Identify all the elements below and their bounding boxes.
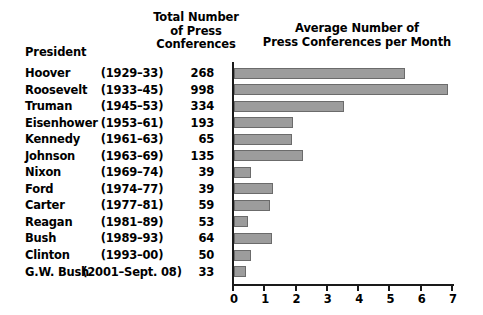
total-header-line-3: Conferences xyxy=(140,38,252,52)
table-row: Ford(1974–77)39 xyxy=(0,182,232,199)
bar-row xyxy=(234,182,483,199)
president-name: Kennedy xyxy=(25,132,80,146)
bar xyxy=(234,183,273,194)
term-years: (1945–53) xyxy=(78,99,186,113)
x-axis-tick-label: 3 xyxy=(318,292,338,306)
x-axis-tick-label: 4 xyxy=(349,292,369,306)
bar xyxy=(234,101,344,112)
term-years: (1953–61) xyxy=(78,116,186,130)
total-conferences-value: 268 xyxy=(178,66,214,80)
president-name: Truman xyxy=(25,99,72,113)
table-row: Kennedy(1961–63)65 xyxy=(0,132,232,149)
total-header-line-1: Total Number xyxy=(140,11,252,25)
x-axis-tick xyxy=(357,284,359,291)
president-column-header: President xyxy=(25,45,87,59)
x-axis-tick xyxy=(263,284,265,291)
president-name: Bush xyxy=(25,231,56,245)
term-years: (1993–00) xyxy=(78,248,186,262)
term-years: (1981–89) xyxy=(78,215,186,229)
x-axis-tick-label: 7 xyxy=(443,292,463,306)
total-conferences-value: 39 xyxy=(178,182,214,196)
bar-row xyxy=(234,198,483,215)
x-axis-tick xyxy=(420,284,422,291)
term-years: (1977–81) xyxy=(78,198,186,212)
president-name: Clinton xyxy=(25,248,70,262)
bar xyxy=(234,117,293,128)
bar xyxy=(234,84,448,95)
bar-row xyxy=(234,265,483,282)
table-row: Clinton(1993–00)50 xyxy=(0,248,232,265)
x-axis-tick xyxy=(451,284,453,291)
total-conferences-header: Total Number of Press Conferences xyxy=(140,11,252,52)
bar-row xyxy=(234,99,483,116)
bar-row xyxy=(234,66,483,83)
bar xyxy=(234,150,303,161)
bar-row xyxy=(234,116,483,133)
total-conferences-value: 53 xyxy=(178,215,214,229)
total-conferences-value: 135 xyxy=(178,149,214,163)
term-years: (1961–63) xyxy=(78,132,186,146)
table-row: Truman(1945–53)334 xyxy=(0,99,232,116)
president-name: Nixon xyxy=(25,165,61,179)
president-name: Johnson xyxy=(25,149,75,163)
total-conferences-value: 64 xyxy=(178,231,214,245)
total-conferences-value: 50 xyxy=(178,248,214,262)
bar xyxy=(234,134,292,145)
total-conferences-value: 59 xyxy=(178,198,214,212)
bar-row xyxy=(234,231,483,248)
bars-container xyxy=(234,66,483,281)
president-name: Carter xyxy=(25,198,65,212)
table-row: Bush(1989–93)64 xyxy=(0,231,232,248)
total-conferences-value: 65 xyxy=(178,132,214,146)
x-axis-tick xyxy=(295,284,297,291)
x-axis-tick-label: 2 xyxy=(287,292,307,306)
total-conferences-value: 193 xyxy=(178,116,214,130)
chart-title: Average Number of Press Conferences per … xyxy=(240,22,474,49)
x-axis-tick xyxy=(388,284,390,291)
total-conferences-value: 998 xyxy=(178,83,214,97)
term-years: (1969–74) xyxy=(78,165,186,179)
term-years: (2001–Sept. 08) xyxy=(78,265,186,279)
table-row: Reagan(1981–89)53 xyxy=(0,215,232,232)
x-axis-tick xyxy=(232,284,234,291)
bar xyxy=(234,266,246,277)
total-conferences-value: 33 xyxy=(178,265,214,279)
bar-row xyxy=(234,248,483,265)
term-years: (1933–45) xyxy=(78,83,186,97)
x-axis-tick-label: 6 xyxy=(412,292,432,306)
bar-row xyxy=(234,215,483,232)
term-years: (1929–33) xyxy=(78,66,186,80)
bar-chart-plot: 01234567 xyxy=(232,62,483,315)
x-axis-tick-label: 0 xyxy=(224,292,244,306)
president-name: Hoover xyxy=(25,66,70,80)
chart-title-line-1: Average Number of xyxy=(240,22,474,36)
chart-title-line-2: Press Conferences per Month xyxy=(240,36,474,50)
total-conferences-value: 39 xyxy=(178,165,214,179)
table-row: Hoover(1929–33)268 xyxy=(0,66,232,83)
x-axis-tick xyxy=(326,284,328,291)
bar xyxy=(234,167,251,178)
bar-row xyxy=(234,165,483,182)
table-row: Roosevelt(1933–45)998 xyxy=(0,83,232,100)
president-table: Hoover(1929–33)268Roosevelt(1933–45)998T… xyxy=(0,66,232,281)
press-conferences-figure: Total Number of Press Conferences Averag… xyxy=(0,0,483,315)
table-row: Carter(1977–81)59 xyxy=(0,198,232,215)
bar-row xyxy=(234,83,483,100)
bar xyxy=(234,68,405,79)
total-conferences-value: 334 xyxy=(178,99,214,113)
bar xyxy=(234,216,248,227)
table-row: Johnson(1963–69)135 xyxy=(0,149,232,166)
table-row: Eisenhower(1953–61)193 xyxy=(0,116,232,133)
bar xyxy=(234,200,270,211)
table-row: G.W. Bush(2001–Sept. 08)33 xyxy=(0,265,232,282)
president-name: Ford xyxy=(25,182,53,196)
president-name: Reagan xyxy=(25,215,72,229)
term-years: (1974–77) xyxy=(78,182,186,196)
bar-row xyxy=(234,132,483,149)
x-axis-tick-label: 1 xyxy=(255,292,275,306)
total-header-line-2: of Press xyxy=(140,25,252,39)
table-row: Nixon(1969–74)39 xyxy=(0,165,232,182)
term-years: (1989–93) xyxy=(78,231,186,245)
bar xyxy=(234,250,251,261)
term-years: (1963–69) xyxy=(78,149,186,163)
